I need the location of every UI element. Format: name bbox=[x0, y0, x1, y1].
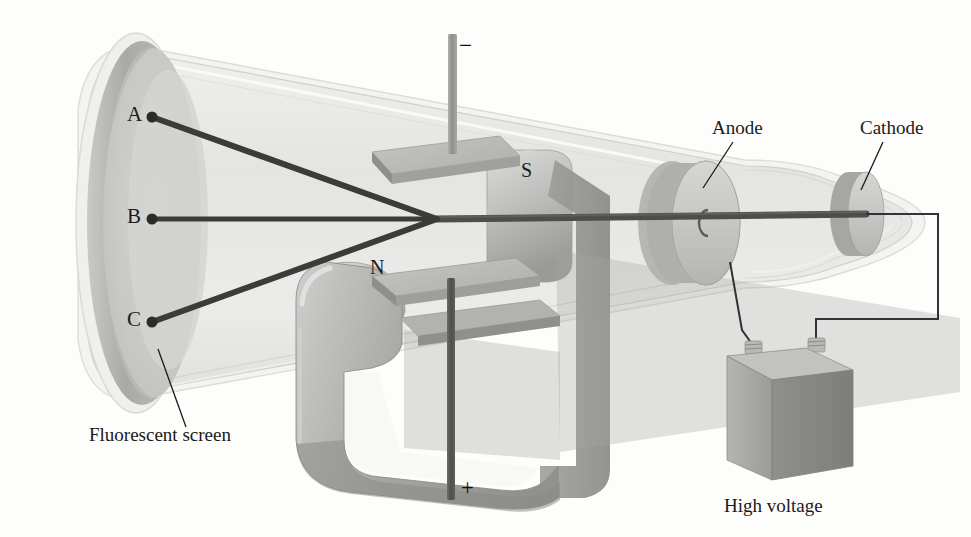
label-cathode: Cathode bbox=[860, 118, 923, 137]
hv-box-right-face bbox=[772, 370, 853, 480]
label-anode: Anode bbox=[712, 118, 763, 137]
cathode-ray-tube-figure: A B C N S − + Fluorescent screen Anode C… bbox=[0, 0, 971, 537]
label-spot-a: A bbox=[127, 104, 142, 125]
spot-b-marker bbox=[147, 214, 158, 225]
label-negative-terminal: − bbox=[459, 34, 472, 57]
label-spot-c: C bbox=[127, 309, 141, 330]
spot-c-marker bbox=[147, 317, 158, 328]
label-pole-south: S bbox=[521, 160, 532, 180]
negative-terminal-rod bbox=[448, 34, 457, 154]
anode-electrode bbox=[638, 161, 740, 285]
label-positive-terminal: + bbox=[461, 476, 474, 499]
terminal-left bbox=[745, 341, 762, 354]
label-high-voltage: High voltage bbox=[724, 496, 823, 515]
positive-terminal-rod bbox=[447, 278, 455, 500]
label-spot-b: B bbox=[127, 206, 141, 227]
magnet-cast-shadow-near bbox=[404, 330, 560, 460]
spot-a-marker bbox=[147, 112, 158, 123]
label-fluorescent-screen: Fluorescent screen bbox=[89, 425, 231, 444]
label-pole-north: N bbox=[370, 257, 384, 277]
crt-diagram-canvas bbox=[0, 0, 971, 537]
